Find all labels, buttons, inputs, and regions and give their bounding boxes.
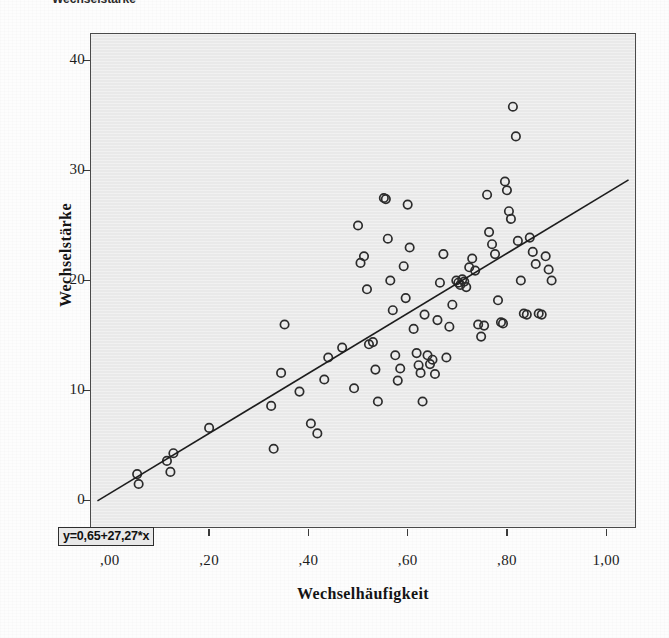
data-point xyxy=(445,323,453,331)
data-point xyxy=(436,279,444,287)
data-point xyxy=(166,468,174,476)
data-point xyxy=(532,260,540,268)
data-point xyxy=(350,384,358,392)
data-point xyxy=(547,276,555,284)
data-point xyxy=(503,186,511,194)
figure-root: Wechselstärke Wechselstärke Wechselhäufi… xyxy=(0,0,669,638)
data-point xyxy=(277,369,285,377)
data-point xyxy=(431,370,439,378)
data-point xyxy=(439,250,447,258)
data-point xyxy=(386,276,394,284)
data-point xyxy=(544,265,552,273)
data-point xyxy=(267,402,275,410)
data-point xyxy=(320,375,328,383)
data-point xyxy=(541,252,549,260)
data-point xyxy=(494,296,502,304)
data-point xyxy=(483,191,491,199)
data-point xyxy=(394,376,402,384)
data-point xyxy=(529,248,537,256)
data-point xyxy=(405,243,413,251)
scatter-plot: Wechselstärke Wechselhäufigkeit 01020304… xyxy=(0,0,669,638)
data-point xyxy=(403,200,411,208)
data-point xyxy=(514,237,522,245)
data-point xyxy=(400,262,408,270)
data-point xyxy=(433,316,441,324)
data-point xyxy=(468,254,476,262)
data-point xyxy=(374,397,382,405)
regression-equation-label: y=0,65+27,27*x xyxy=(58,527,154,546)
data-point xyxy=(269,445,277,453)
data-point xyxy=(477,332,485,340)
data-point xyxy=(389,306,397,314)
data-point xyxy=(488,240,496,248)
data-point xyxy=(401,294,409,302)
data-point xyxy=(517,276,525,284)
data-point xyxy=(396,364,404,372)
data-point xyxy=(391,351,399,359)
data-point xyxy=(371,365,379,373)
data-point xyxy=(134,480,142,488)
data-point xyxy=(448,301,456,309)
data-point xyxy=(491,250,499,258)
data-points-group xyxy=(133,103,556,489)
data-point xyxy=(501,177,509,185)
data-point xyxy=(416,369,424,377)
data-point xyxy=(480,321,488,329)
regression-line xyxy=(97,180,628,501)
data-point xyxy=(442,353,450,361)
data-point xyxy=(509,103,517,111)
data-point xyxy=(412,349,420,357)
data-point xyxy=(280,320,288,328)
data-point xyxy=(507,215,515,223)
data-point xyxy=(313,429,321,437)
data-point xyxy=(307,419,315,427)
data-point xyxy=(485,228,493,236)
data-point xyxy=(295,387,303,395)
data-point xyxy=(418,397,426,405)
data-point xyxy=(420,310,428,318)
data-point xyxy=(363,285,371,293)
data-point xyxy=(512,132,520,140)
data-point xyxy=(409,325,417,333)
data-point xyxy=(354,221,362,229)
data-point xyxy=(384,235,392,243)
